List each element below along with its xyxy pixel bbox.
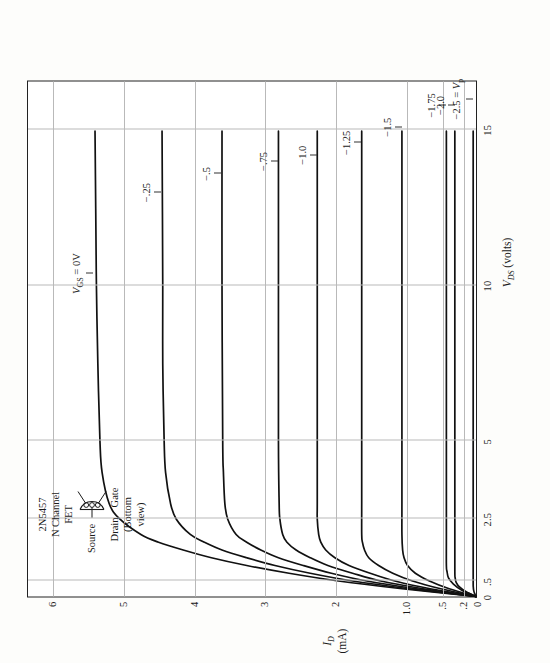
y-tick-label: 2 xyxy=(330,601,341,623)
curve-label-vgs-m10: −1.0 xyxy=(296,145,307,164)
curve--5 xyxy=(222,131,476,596)
y-tick-label: 1.0 xyxy=(401,601,412,623)
curve-label-vgs-m15: −1.5 xyxy=(381,117,392,136)
curve-label-vgs-m05: −.5 xyxy=(200,167,211,181)
curve--1-25 xyxy=(362,131,476,596)
curve-label-vgs-0: VGS = 0V xyxy=(71,253,85,294)
curve-label-leader xyxy=(466,98,473,99)
gridline-vertical xyxy=(28,128,476,129)
device-info-box: 2N5457 N Channel FET Source xyxy=(37,439,148,589)
curve-label-vgs-m25-vp: −2.5 = Vp xyxy=(451,78,465,119)
to92-pinout-icon xyxy=(77,475,107,517)
curve-label-vgs-m125: −1.25 xyxy=(341,130,352,154)
curve-label-leader xyxy=(214,172,221,173)
curve-label-leader xyxy=(395,126,402,127)
x-tick-label: 15 xyxy=(482,124,493,135)
gridline-horizontal xyxy=(407,81,408,596)
x-tick-label: 10 xyxy=(482,280,493,291)
gridline-horizontal xyxy=(443,81,444,596)
device-part-number: 2N5457 xyxy=(37,439,50,589)
gridline-horizontal xyxy=(464,81,465,596)
x-tick-label: 5 xyxy=(482,439,493,444)
view-note-line2: view) xyxy=(135,439,148,589)
curve-label-leader xyxy=(154,191,161,192)
curve--2-5-vp xyxy=(473,131,476,596)
y-axis-title: ID(mA) xyxy=(321,628,348,653)
device-type: FET xyxy=(63,439,76,589)
gridline-horizontal xyxy=(195,81,196,596)
x-tick-label: 0 xyxy=(482,594,493,599)
curve-label-vgs-m025: −.25 xyxy=(140,183,151,202)
pin-label-source: Source xyxy=(86,523,99,552)
curve-label-vgs-m075: −.75 xyxy=(257,151,268,170)
y-tick-label: 5 xyxy=(117,601,128,623)
gridline-vertical xyxy=(28,284,476,285)
curve-label-leader xyxy=(86,272,93,273)
device-channel-type: N Channel xyxy=(50,439,63,589)
y-tick-label: 4 xyxy=(188,601,199,623)
y-tick-label: 0 xyxy=(472,601,483,623)
curve--25 xyxy=(162,131,476,596)
curve--1-0 xyxy=(317,131,476,596)
curve-label-vgs-m20: −2.0 xyxy=(434,95,445,114)
pin-label-gate: Gate xyxy=(109,487,122,507)
x-tick-label: .5 xyxy=(482,577,493,585)
y-tick-label: 3 xyxy=(259,601,270,623)
curve--1-75 xyxy=(446,131,476,596)
curve--1-5 xyxy=(402,131,476,596)
view-note-line1: (Bottom xyxy=(122,439,135,589)
y-tick-label: .2 xyxy=(457,601,468,623)
curve-label-leader xyxy=(271,160,278,161)
y-tick-label: 6 xyxy=(46,601,57,623)
y-tick-label: .5 xyxy=(436,601,447,623)
pin-label-drain: Drain xyxy=(109,517,122,541)
curve-label-leader xyxy=(354,141,361,142)
gridline-horizontal xyxy=(336,81,337,596)
rotated-figure-stage: 0.52.5510150.2.51.023456 VGS = 0V−.25−.5… xyxy=(0,0,550,663)
curve-label-leader xyxy=(310,154,317,155)
x-tick-label: 2.5 xyxy=(482,512,493,526)
x-axis-title: VDS (volts) xyxy=(501,237,516,287)
curve-vgs-0v xyxy=(95,131,476,596)
